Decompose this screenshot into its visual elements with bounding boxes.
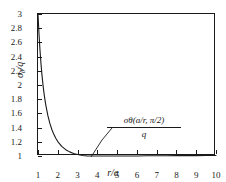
y-axis-tick-label: 1.6 bbox=[11, 109, 22, 118]
x-axis-tick bbox=[97, 150, 98, 154]
x-axis-tick bbox=[38, 150, 39, 154]
y-axis-tick bbox=[38, 99, 42, 100]
y-axis-title: σθ/q bbox=[14, 48, 26, 92]
y-axis-tick-label: 2.6 bbox=[11, 38, 22, 47]
x-axis-title: r/a bbox=[0, 167, 226, 178]
y-axis-tick bbox=[38, 71, 42, 72]
x-axis-tick bbox=[137, 150, 138, 154]
x-axis-tick bbox=[78, 150, 79, 154]
stress-concentration-chart: σθ(a/r, π/2) q 11.21.41.61.822.22.42.62.… bbox=[0, 0, 226, 182]
curve-annotation: σθ(a/r, π/2) q bbox=[106, 115, 182, 140]
y-axis-tick bbox=[38, 156, 42, 157]
plot-area: σθ(a/r, π/2) q 11.21.41.61.822.22.42.62.… bbox=[37, 13, 215, 155]
y-axis-theta-subscript: θ bbox=[19, 70, 26, 73]
x-axis-tick bbox=[176, 150, 177, 154]
y-axis-tick-label: 1 bbox=[18, 152, 23, 161]
x-axis-tick bbox=[216, 150, 217, 154]
annotation-numerator: σθ(a/r, π/2) bbox=[106, 115, 182, 127]
y-axis-tick-label: 3 bbox=[18, 10, 23, 19]
y-axis-tick bbox=[38, 28, 42, 29]
y-axis-tick bbox=[38, 113, 42, 114]
y-axis-over-q: /q bbox=[14, 62, 25, 70]
y-axis-tick bbox=[38, 85, 42, 86]
y-axis-tick bbox=[38, 128, 42, 129]
y-axis-tick bbox=[38, 142, 42, 143]
y-axis-tick-label: 1.2 bbox=[11, 138, 22, 147]
y-axis-tick bbox=[38, 57, 42, 58]
x-axis-tick bbox=[157, 150, 158, 154]
y-axis-sigma: σ bbox=[14, 73, 25, 78]
y-axis-tick-label: 1.4 bbox=[11, 124, 22, 133]
x-axis-tick bbox=[58, 150, 59, 154]
y-axis-tick bbox=[38, 42, 42, 43]
annotation-denominator: q bbox=[106, 128, 182, 140]
y-axis-tick-label: 1.8 bbox=[11, 95, 22, 104]
y-axis-tick bbox=[38, 14, 42, 15]
y-axis-tick-label: 2.8 bbox=[11, 24, 22, 33]
x-axis-tick bbox=[196, 150, 197, 154]
x-axis-tick bbox=[117, 150, 118, 154]
